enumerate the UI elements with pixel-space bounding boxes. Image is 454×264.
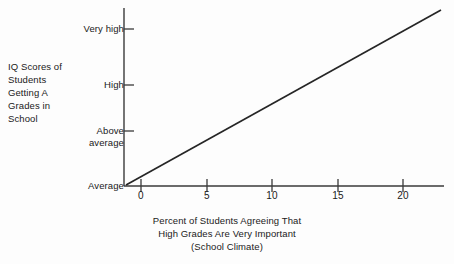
x-axis-title-line: Percent of Students Agreeing That	[0, 214, 454, 227]
x-tick-label-15: 15	[323, 190, 353, 201]
y-tick-label-very-high: Very high	[54, 23, 124, 35]
y-tick-label-average: Average	[54, 180, 124, 192]
x-tick-label-10: 10	[257, 190, 287, 201]
y-tick-label-above-average-line1: Above	[54, 125, 124, 137]
y-tick-label-above-average-line2: average	[54, 137, 124, 149]
chart-figure: IQ Scores of Students Getting A Grades i…	[0, 0, 454, 264]
x-axis-title-line: (School Climate)	[0, 240, 454, 253]
x-tick-label-5: 5	[192, 190, 222, 201]
x-axis-title: Percent of Students Agreeing That High G…	[0, 214, 454, 253]
y-tick-label-high: High	[54, 79, 124, 91]
y-tick-label-above-average: Above average	[54, 125, 124, 149]
data-line-trend	[126, 10, 441, 185]
x-tick-label-20: 20	[388, 190, 418, 201]
x-axis-title-line: High Grades Are Very Important	[0, 227, 454, 240]
x-tick-label-0: 0	[126, 190, 156, 201]
